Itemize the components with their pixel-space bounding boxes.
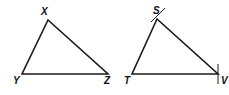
triangle-xyz: X Y Z [13, 6, 111, 86]
triangle-xyz-shape [22, 20, 108, 74]
triangles-diagram: X Y Z S T V [0, 0, 229, 95]
vertex-label-t: T [124, 75, 131, 86]
triangle-stv-shape [132, 19, 218, 74]
vertex-label-v: V [221, 75, 229, 86]
vertex-label-s: S [153, 5, 160, 16]
vertex-label-z: Z [103, 75, 111, 86]
triangle-stv: S T V [124, 5, 229, 86]
vertex-label-x: X [40, 6, 49, 17]
vertex-label-y: Y [13, 75, 21, 86]
